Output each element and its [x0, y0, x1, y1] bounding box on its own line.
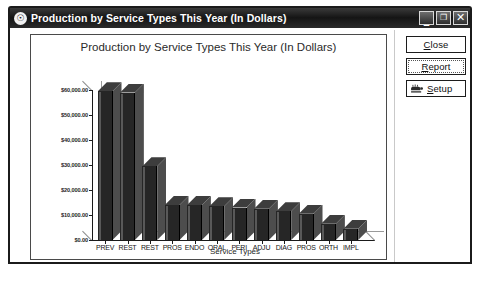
report-button-accesskey: R: [421, 61, 428, 72]
y-axis-tick-label: $0.00: [28, 237, 88, 243]
y-axis-tick-label: $50,000.00: [28, 112, 88, 118]
chart-bar: [321, 215, 345, 240]
y-axis-tick-label: $40,000.00: [28, 137, 88, 143]
action-button-column: CloseReportSetup: [406, 36, 466, 102]
maximize-button[interactable]: ❐: [436, 11, 451, 25]
y-axis-tick-mark: [89, 165, 93, 166]
hand-tool-icon: [410, 83, 425, 94]
x-axis-title: Service Types: [92, 247, 378, 256]
setup-button[interactable]: Setup: [406, 80, 466, 97]
chart-bar: [254, 200, 278, 240]
window-client-area: Production by Service Types This Year (I…: [10, 28, 470, 262]
y-axis-tick-mark: [89, 140, 93, 141]
bar-highlight: [255, 210, 257, 240]
panel-divider: [394, 30, 395, 262]
y-axis-tick-mark: [89, 240, 93, 241]
y-axis-tick-mark: [89, 215, 93, 216]
setup-button-label: Setup: [427, 83, 452, 94]
chart-bar: [209, 197, 233, 240]
bar-highlight: [188, 206, 190, 240]
minimize-icon: _: [420, 14, 433, 26]
close-button-label: Close: [424, 39, 449, 50]
window-titlebar[interactable]: ☉ Production by Service Types This Year …: [10, 8, 470, 28]
report-button[interactable]: Report: [406, 58, 466, 75]
close-icon: ✕: [454, 12, 467, 24]
bar-highlight: [322, 225, 324, 240]
chart-bar: [120, 84, 144, 241]
close-button-accesskey: C: [424, 39, 431, 50]
chart-bar: [276, 202, 300, 240]
chart-bar: [98, 82, 122, 240]
chart-bar: [187, 196, 211, 240]
bar-highlight: [210, 207, 212, 240]
chart-panel: Production by Service Types This Year (I…: [30, 34, 387, 260]
bar-highlight: [300, 215, 302, 240]
bar-highlight: [166, 206, 168, 240]
close-button[interactable]: Close: [406, 36, 466, 53]
bar-highlight: [277, 212, 279, 240]
setup-button-accesskey: S: [427, 83, 433, 94]
y-axis-tick-label: $60,000.00: [28, 87, 88, 93]
y-axis-tick-mark: [89, 90, 93, 91]
y-axis-tick-mark: [89, 115, 93, 116]
bar-highlight: [143, 167, 145, 240]
close-window-button[interactable]: ✕: [453, 11, 468, 25]
chart-bar: [343, 220, 367, 240]
y-axis-tick-label: $20,000.00: [28, 187, 88, 193]
chart-bar: [299, 205, 323, 240]
bar-highlight: [344, 230, 346, 240]
bar-highlight: [99, 92, 101, 240]
bar-chart-plot: $60,000.00$50,000.00$40,000.00$30,000.00…: [31, 35, 386, 259]
y-axis-tick-label: $10,000.00: [28, 212, 88, 218]
minimize-button[interactable]: _: [419, 11, 434, 25]
y-axis-tick-label: $30,000.00: [28, 162, 88, 168]
bar-highlight: [121, 94, 123, 241]
chart-bar: [232, 199, 256, 241]
x-axis-line: [92, 240, 375, 241]
report-window: ☉ Production by Service Types This Year …: [8, 6, 472, 264]
window-title: Production by Service Types This Year (I…: [31, 12, 417, 24]
maximize-icon: ❐: [437, 12, 450, 24]
chart-bar: [165, 196, 189, 240]
report-button-label: Report: [421, 61, 450, 72]
y-axis-tick-mark: [89, 190, 93, 191]
clock-icon: ☉: [14, 12, 27, 25]
chart-bar: [142, 157, 166, 240]
bar-highlight: [233, 209, 235, 241]
